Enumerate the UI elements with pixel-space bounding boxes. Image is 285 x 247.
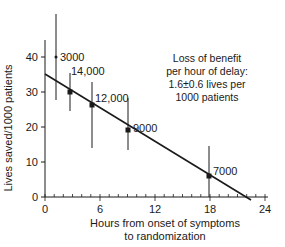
annotation-line-4: 1000 patients xyxy=(175,91,238,103)
point-label: 12,000 xyxy=(95,92,129,104)
point-marker xyxy=(90,103,95,108)
chart: 0 10 20 30 40 Lives saved/1000 patients xyxy=(0,0,285,247)
y-axis-label: Lives saved/1000 patients xyxy=(2,64,14,192)
y-tick-40: 40 xyxy=(26,51,38,63)
x-axis: 0 6 12 18 24 Hours from onset of symptom… xyxy=(42,194,271,242)
data-point-9000: 9000 xyxy=(126,98,158,150)
point-label: 7000 xyxy=(213,165,237,177)
data-point-14000: 14,000 xyxy=(68,65,105,111)
x-axis-label-line2: to randomization xyxy=(124,230,205,242)
point-marker xyxy=(68,90,73,95)
annotation-line-1: Loss of benefit xyxy=(173,52,241,64)
annotation-box: Loss of benefit per hour of delay: 1.6±0… xyxy=(166,52,248,103)
point-label: 3000 xyxy=(60,51,84,63)
x-axis-label-line1: Hours from onset of symptoms xyxy=(90,217,240,229)
point-marker xyxy=(207,174,212,179)
y-tick-20: 20 xyxy=(26,121,38,133)
annotation-line-3: 1.6±0.6 lives per xyxy=(169,78,246,90)
y-tick-10: 10 xyxy=(26,156,38,168)
data-point-3000: 3000 xyxy=(55,14,85,100)
point-marker xyxy=(126,128,131,133)
y-tick-0: 0 xyxy=(32,191,38,203)
point-label: 14,000 xyxy=(71,65,105,77)
x-tick-6: 6 xyxy=(97,203,103,215)
point-label: 9000 xyxy=(133,122,157,134)
data-point-12000: 12,000 xyxy=(90,82,129,148)
x-tick-18: 18 xyxy=(204,203,216,215)
point-marker xyxy=(55,56,58,59)
x-tick-0: 0 xyxy=(42,203,48,215)
y-tick-30: 30 xyxy=(26,86,38,98)
annotation-line-2: per hour of delay: xyxy=(166,65,248,77)
x-tick-24: 24 xyxy=(259,203,271,215)
y-axis: 0 10 20 30 40 Lives saved/1000 patients xyxy=(2,40,45,203)
x-tick-12: 12 xyxy=(149,203,161,215)
